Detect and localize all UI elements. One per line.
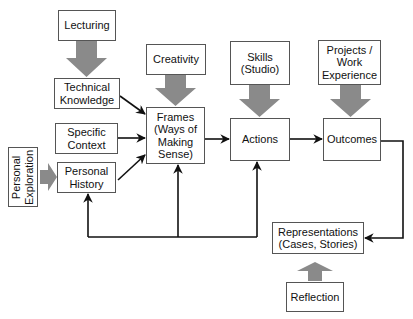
node-specific-context: Specific Context	[55, 123, 118, 154]
edge-technical-to-frames	[120, 96, 145, 114]
node-representations: Representations (Cases, Stories)	[272, 222, 364, 254]
node-label: Projects / Work Experience	[322, 44, 377, 82]
node-personal-history: Personal History	[57, 162, 116, 193]
node-lecturing: Lecturing	[58, 10, 116, 41]
arrow-skills-to-actions	[239, 85, 280, 117]
edge-history-to-frames	[118, 155, 145, 180]
node-actions: Actions	[230, 118, 290, 161]
arrow-lecturing-to-technical	[66, 41, 107, 77]
node-outcomes: Outcomes	[323, 118, 381, 161]
node-label: Technical Knowledge	[60, 81, 114, 106]
node-skills: Skills (Studio)	[230, 41, 290, 85]
node-reflection: Reflection	[286, 282, 344, 312]
node-label: Personal History	[65, 165, 108, 190]
node-label: Personal Exploration	[11, 149, 36, 204]
arrow-reflection-to-representations	[297, 262, 333, 281]
node-label: Outcomes	[327, 133, 377, 146]
node-projects: Projects / Work Experience	[318, 40, 381, 85]
node-label: Representations (Cases, Stories)	[278, 226, 358, 251]
node-label: Skills (Studio)	[241, 51, 280, 76]
node-technical-knowledge: Technical Knowledge	[54, 78, 120, 109]
node-label: Frames (Ways of Making Sense)	[154, 111, 197, 161]
arrow-creativity-to-frames	[155, 75, 196, 106]
node-label: Reflection	[291, 291, 340, 304]
node-label: Specific Context	[67, 126, 106, 151]
node-label: Lecturing	[64, 19, 109, 32]
arrow-projects-to-outcomes	[330, 85, 371, 117]
arrow-exploration-to-history	[40, 163, 57, 191]
node-personal-exploration: Personal Exploration	[8, 147, 38, 207]
node-creativity: Creativity	[146, 44, 206, 75]
node-label: Creativity	[153, 53, 199, 66]
node-frames: Frames (Ways of Making Sense)	[146, 107, 205, 164]
node-label: Actions	[242, 133, 278, 146]
